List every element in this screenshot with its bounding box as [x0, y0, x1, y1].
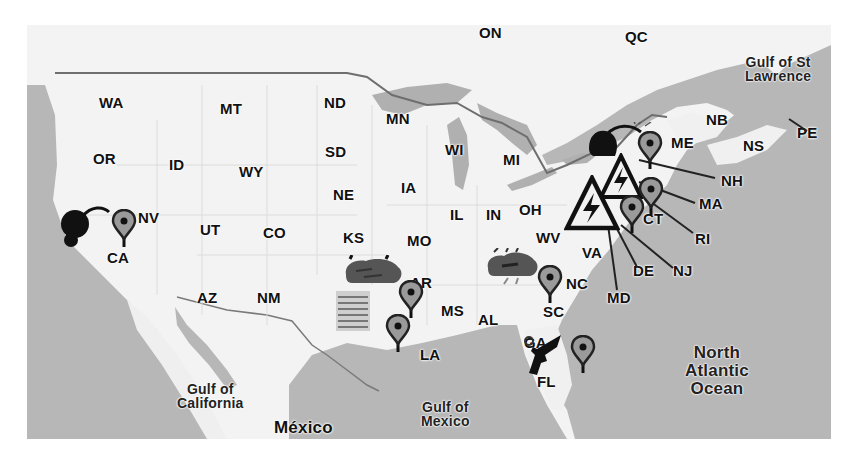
- water-label-line: Gulf of St: [745, 55, 811, 69]
- state-label-mo: MO: [407, 233, 432, 248]
- state-label-md: MD: [607, 290, 631, 305]
- state-label-il: IL: [450, 207, 464, 222]
- us-map[interactable]: WAMTNDMNORIDWYSDWIMINEIANVUTCOILINOHKSMO…: [27, 25, 831, 439]
- state-label-ri: RI: [695, 231, 710, 246]
- state-label-me: ME: [671, 135, 694, 150]
- state-label-wa: WA: [99, 95, 124, 110]
- state-label-ia: IA: [401, 180, 416, 195]
- state-label-pe: PE: [797, 125, 817, 140]
- state-label-nv: NV: [138, 210, 159, 225]
- water-label-gulf-of-california: Gulf ofCalifornia: [177, 382, 244, 410]
- state-label-oh: OH: [519, 202, 542, 217]
- map-pin-fl-icon[interactable]: [570, 335, 596, 379]
- country-label-mexico: México: [274, 420, 333, 435]
- state-label-nm: NM: [257, 290, 281, 305]
- map-pin-ca-icon[interactable]: [111, 209, 137, 253]
- state-label-qc: QC: [625, 29, 648, 44]
- state-label-nb: NB: [706, 112, 728, 127]
- state-label-nh: NH: [721, 173, 743, 188]
- state-label-de: DE: [633, 263, 654, 278]
- state-label-sd: SD: [325, 144, 346, 159]
- water-label-gulf-of-mexico: Gulf ofMexico: [421, 400, 470, 428]
- water-label-line: Gulf of: [177, 382, 244, 396]
- map-pin-ar-south-icon[interactable]: [385, 314, 411, 358]
- map-pin-nj-icon[interactable]: [619, 195, 645, 239]
- map-pin-ga-icon[interactable]: [537, 265, 563, 309]
- high-voltage-warning-icon[interactable]: [564, 175, 620, 237]
- state-label-nc: NC: [566, 276, 588, 291]
- state-label-ms: MS: [441, 303, 464, 318]
- state-label-mn: MN: [386, 111, 410, 126]
- state-label-wy: WY: [239, 164, 264, 179]
- state-label-mi: MI: [503, 152, 520, 167]
- water-label-line: Gulf of: [421, 400, 470, 414]
- state-label-ns: NS: [743, 138, 764, 153]
- state-label-ks: KS: [343, 230, 364, 245]
- state-label-ma: MA: [699, 196, 723, 211]
- state-label-nd: ND: [324, 95, 346, 110]
- lake-erie: [507, 167, 557, 191]
- state-label-va: VA: [582, 245, 602, 260]
- state-label-az: AZ: [197, 290, 217, 305]
- state-label-wv: WV: [536, 230, 561, 245]
- state-label-co: CO: [263, 225, 286, 240]
- water-label-line: North: [685, 344, 749, 362]
- state-label-wi: WI: [445, 142, 464, 157]
- state-label-in: IN: [486, 207, 501, 222]
- state-label-ut: UT: [200, 222, 220, 237]
- bomb-icon[interactable]: [57, 202, 119, 252]
- water-label-north-atlantic-ocean: NorthAtlanticOcean: [685, 344, 749, 398]
- water-label-line: Atlantic: [685, 362, 749, 380]
- map-pin-me-icon[interactable]: [637, 131, 663, 175]
- state-label-on: ON: [479, 25, 502, 40]
- water-label-line: Ocean: [685, 380, 749, 398]
- state-label-or: OR: [93, 151, 116, 166]
- water-label-gulf-of-st-lawrence: Gulf of StLawrence: [745, 55, 811, 83]
- water-label-line: Lawrence: [745, 69, 811, 83]
- lake-huron: [477, 103, 537, 155]
- state-label-nj: NJ: [673, 263, 693, 278]
- gun-icon[interactable]: [523, 333, 563, 383]
- water-label-line: Mexico: [421, 414, 470, 428]
- state-label-mt: MT: [220, 101, 242, 116]
- storm-cloud-icon-ga[interactable]: [482, 248, 544, 290]
- state-label-id: ID: [169, 157, 184, 172]
- state-label-la: LA: [420, 347, 440, 362]
- water-label-line: California: [177, 396, 244, 410]
- state-label-al: AL: [478, 312, 498, 327]
- flood-icon[interactable]: [334, 285, 374, 339]
- state-label-ne: NE: [333, 187, 354, 202]
